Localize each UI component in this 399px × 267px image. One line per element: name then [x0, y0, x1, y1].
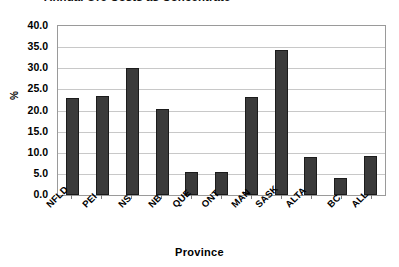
bar-slot: [236, 26, 266, 195]
x-label-slot: ONT: [207, 200, 237, 240]
y-tick-label: 10.0: [4, 147, 48, 157]
x-tick: [221, 195, 222, 199]
y-tick-label: 20.0: [4, 105, 48, 115]
bar[interactable]: [126, 68, 139, 195]
bar-slot: [177, 26, 207, 195]
x-label-slot: NFLD: [57, 200, 87, 240]
bar-slot: [88, 26, 118, 195]
bar-slot: [117, 26, 147, 195]
bar-chart-figure: Annual Ore Costs as Concentrate % 40.035…: [0, 0, 399, 267]
y-tick-label: 0.0: [4, 189, 48, 199]
y-tick-label: 40.0: [4, 20, 48, 30]
bar-slot: [355, 26, 385, 195]
bar-slot: [207, 26, 237, 195]
bar[interactable]: [275, 50, 288, 195]
bar[interactable]: [156, 109, 169, 195]
bar-slot: [296, 26, 326, 195]
y-axis-tick-labels: 40.035.030.025.020.015.010.05.00.0: [0, 0, 48, 267]
x-tick: [251, 195, 252, 199]
y-tick-label: 35.0: [4, 41, 48, 51]
x-label-slot: PEI: [87, 200, 117, 240]
x-label-slot: ALL: [356, 200, 386, 240]
x-tick: [71, 195, 72, 199]
y-tick-label: 30.0: [4, 62, 48, 72]
bar-slot: [147, 26, 177, 195]
bar-slot: [266, 26, 296, 195]
y-tick-label: 15.0: [4, 126, 48, 136]
bar[interactable]: [66, 98, 79, 195]
y-tick-label: 5.0: [4, 168, 48, 178]
bar[interactable]: [96, 96, 109, 195]
x-label-slot: NB: [147, 200, 177, 240]
plot-area: [57, 25, 386, 196]
chart-title: Annual Ore Costs as Concentrate: [44, 0, 344, 5]
x-tick: [311, 195, 312, 199]
x-tick: [371, 195, 372, 199]
x-axis-tick-labels: NFLDPEINSNBQUEONTMANSASKALTABCALL: [57, 200, 386, 240]
x-tick: [281, 195, 282, 199]
bar[interactable]: [364, 156, 377, 195]
x-tick: [101, 195, 102, 199]
bar-series: [58, 26, 385, 195]
x-label-slot: NS: [117, 200, 147, 240]
bar-slot: [58, 26, 88, 195]
y-tick-label: 25.0: [4, 83, 48, 93]
x-label-slot: ALTA: [296, 200, 326, 240]
bar-slot: [326, 26, 356, 195]
x-label-slot: BC: [326, 200, 356, 240]
bar[interactable]: [245, 97, 258, 195]
x-axis-title: Province: [0, 246, 399, 258]
